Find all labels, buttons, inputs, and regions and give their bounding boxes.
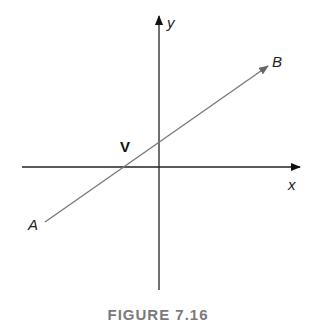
- point-b-label: B: [272, 53, 282, 70]
- x-axis-label: x: [287, 176, 296, 193]
- figure-diagram: y x B A V FIGURE 7.16: [0, 0, 317, 329]
- y-axis-label: y: [166, 14, 176, 31]
- vector-v-label: V: [120, 138, 130, 155]
- line-ab: [45, 66, 268, 222]
- figure-caption: FIGURE 7.16: [107, 306, 208, 323]
- point-a-label: A: [27, 216, 38, 233]
